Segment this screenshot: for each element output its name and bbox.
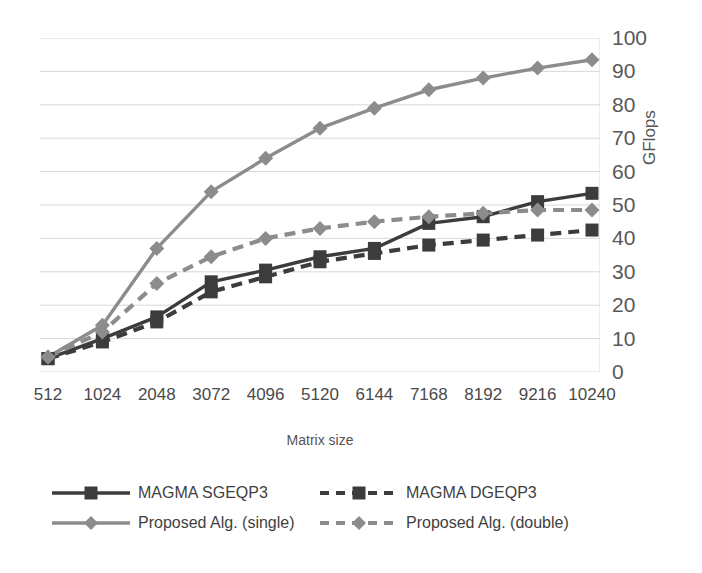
series-line	[48, 193, 592, 358]
legend-square-marker-icon	[320, 484, 398, 502]
x-tick-label: 512	[34, 385, 62, 405]
data-point-square	[150, 315, 163, 328]
data-point-square	[259, 270, 272, 283]
x-tick-label: 2048	[138, 385, 176, 405]
series-line	[48, 230, 592, 359]
legend-item-label: Proposed Alg. (double)	[406, 514, 569, 532]
y-axis-title: GFlops	[640, 110, 660, 165]
x-tick-label: 6144	[355, 385, 393, 405]
x-tick-label: 9216	[519, 385, 557, 405]
data-point-square	[586, 187, 599, 200]
y-tick-label: 70	[612, 127, 635, 148]
plot-area	[40, 38, 600, 372]
data-point-diamond	[530, 61, 545, 76]
y-axis: 0102030405060708090100	[604, 0, 652, 420]
data-point-square	[368, 247, 381, 260]
data-point-square	[314, 255, 327, 268]
gridlines	[40, 38, 600, 372]
x-axis-title: Matrix size	[0, 432, 640, 448]
y-tick-label: 50	[612, 194, 635, 215]
legend-item[interactable]: MAGMA SGEQP3	[52, 484, 302, 502]
data-point-diamond	[313, 221, 328, 236]
data-point-diamond	[258, 151, 273, 166]
performance-line-chart: 0102030405060708090100 GFlops 5121024204…	[0, 0, 702, 573]
y-tick-label: 20	[612, 294, 635, 315]
legend-diamond-marker-icon	[320, 514, 398, 532]
legend-item-label: MAGMA SGEQP3	[138, 484, 268, 502]
y-tick-label: 40	[612, 227, 635, 248]
data-point-diamond	[585, 52, 600, 67]
x-tick-label: 5120	[301, 385, 339, 405]
legend-item[interactable]: MAGMA DGEQP3	[320, 484, 570, 502]
legend-item-label: MAGMA DGEQP3	[406, 484, 537, 502]
data-point-diamond	[367, 214, 382, 229]
data-point-diamond	[421, 82, 436, 97]
data-point-square	[477, 234, 490, 247]
x-axis: 5121024204830724096512061447168819292161…	[0, 385, 660, 411]
x-tick-label: 10240	[568, 385, 615, 405]
y-tick-label: 90	[612, 60, 635, 81]
x-tick-label: 1024	[83, 385, 121, 405]
y-tick-label: 80	[612, 94, 635, 115]
legend-item-label: Proposed Alg. (single)	[138, 514, 295, 532]
data-point-diamond	[367, 101, 382, 116]
chart-legend: MAGMA SGEQP3MAGMA DGEQP3Proposed Alg. (s…	[52, 478, 672, 538]
x-tick-label: 7168	[410, 385, 448, 405]
legend-item[interactable]: Proposed Alg. (double)	[320, 514, 570, 532]
y-tick-label: 100	[612, 27, 647, 48]
legend-square-marker-icon	[52, 484, 130, 502]
data-point-diamond	[149, 276, 164, 291]
y-tick-label: 30	[612, 261, 635, 282]
data-point-square	[422, 239, 435, 252]
y-tick-label: 0	[612, 361, 624, 382]
legend-item[interactable]: Proposed Alg. (single)	[52, 514, 302, 532]
data-point-diamond	[476, 71, 491, 86]
data-point-diamond	[313, 121, 328, 136]
x-tick-label: 3072	[192, 385, 230, 405]
plot-canvas	[40, 38, 600, 372]
data-point-diamond	[258, 231, 273, 246]
data-point-square	[531, 229, 544, 242]
data-point-square	[586, 224, 599, 237]
data-point-square	[205, 285, 218, 298]
legend-diamond-marker-icon	[52, 514, 130, 532]
x-tick-label: 4096	[247, 385, 285, 405]
data-point-diamond	[204, 249, 219, 264]
x-tick-label: 8192	[464, 385, 502, 405]
y-tick-label: 60	[612, 161, 635, 182]
y-tick-label: 10	[612, 328, 635, 349]
